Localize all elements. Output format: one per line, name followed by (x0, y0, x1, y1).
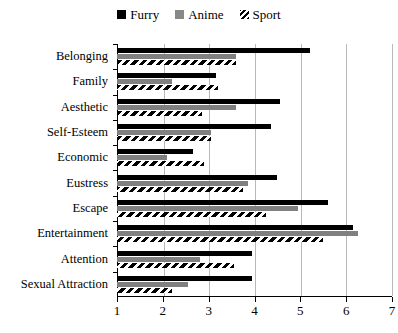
legend-item-anime: Anime (175, 8, 223, 21)
bar-anime (117, 206, 298, 211)
bar-sport (117, 237, 323, 242)
legend-item-sport: Sport (240, 8, 281, 21)
y-axis-tick (113, 170, 117, 171)
bar-group (117, 196, 392, 221)
y-axis-label: Sexual Attraction (0, 272, 113, 297)
x-axis-label: 7 (389, 303, 396, 319)
bar-group (117, 69, 392, 94)
bar-anime (117, 79, 172, 84)
bar-anime (117, 231, 358, 236)
bar-rows (117, 44, 392, 297)
bar-sport (117, 85, 218, 90)
legend-swatch-sport-icon (240, 10, 249, 19)
x-axis-tick (117, 297, 118, 302)
bar-group (117, 221, 392, 246)
horizontal-bar-chart: Furry Anime Sport BelongingFamilyAesthet… (0, 0, 398, 333)
bar-furry (117, 276, 252, 281)
bar-anime (117, 257, 200, 262)
y-axis-label: Escape (0, 196, 113, 221)
x-axis-label: 5 (297, 303, 304, 319)
x-axis-tick (300, 297, 301, 302)
x-axis-labels: 1234567 (0, 303, 398, 325)
bar-furry (117, 225, 353, 230)
y-axis-label: Attention (0, 246, 113, 271)
bar-sport (117, 212, 266, 217)
bar-sport (117, 288, 172, 293)
x-axis-label: 2 (160, 303, 167, 319)
bar-furry (117, 175, 277, 180)
bar-anime (117, 130, 211, 135)
bar-furry (117, 124, 271, 129)
bar-group (117, 145, 392, 170)
bar-furry (117, 149, 193, 154)
bar-group (117, 95, 392, 120)
y-axis-label: Family (0, 69, 113, 94)
x-axis-label: 3 (205, 303, 212, 319)
bar-anime (117, 105, 236, 110)
y-axis-label: Aesthetic (0, 95, 113, 120)
plot-area-wrapper (117, 44, 392, 297)
bar-group (117, 272, 392, 297)
bar-sport (117, 136, 211, 141)
y-axis-tick (113, 221, 117, 222)
bar-sport (117, 161, 204, 166)
y-axis-label: Belonging (0, 44, 113, 69)
bar-group (117, 170, 392, 195)
legend-label-anime: Anime (188, 8, 223, 21)
bar-sport (117, 111, 202, 116)
legend-label-furry: Furry (130, 8, 159, 21)
bar-group (117, 120, 392, 145)
y-axis-tick (113, 120, 117, 121)
x-axis-label: 6 (343, 303, 350, 319)
legend-label-sport: Sport (253, 8, 281, 21)
y-axis-label: Self-Esteem (0, 120, 113, 145)
y-axis-label: Eustress (0, 170, 113, 195)
x-axis-tick (209, 297, 210, 302)
bar-anime (117, 181, 248, 186)
bar-furry (117, 73, 216, 78)
x-axis-tick (255, 297, 256, 302)
bar-anime (117, 155, 167, 160)
x-axis-tick (346, 297, 347, 302)
y-axis-tick (113, 95, 117, 96)
legend-item-furry: Furry (117, 8, 159, 21)
x-axis-tick (392, 297, 393, 302)
bar-furry (117, 48, 310, 53)
legend-swatch-furry-icon (117, 10, 126, 19)
x-axis-label: 1 (114, 303, 121, 319)
bar-furry (117, 200, 328, 205)
bar-furry (117, 251, 252, 256)
bar-sport (117, 263, 234, 268)
y-axis-tick (113, 44, 117, 45)
chart-legend: Furry Anime Sport (0, 8, 398, 21)
y-axis-tick (113, 145, 117, 146)
bar-sport (117, 187, 243, 192)
gridline (392, 44, 393, 296)
legend-swatch-anime-icon (175, 10, 184, 19)
bar-group (117, 246, 392, 271)
bar-furry (117, 99, 280, 104)
y-axis-tick (113, 69, 117, 70)
bar-group (117, 44, 392, 69)
bar-sport (117, 60, 236, 65)
x-axis-label: 4 (251, 303, 258, 319)
y-axis-label: Entertainment (0, 221, 113, 246)
x-axis-tick (163, 297, 164, 302)
bar-anime (117, 282, 188, 287)
y-axis-labels: BelongingFamilyAestheticSelf-EsteemEcono… (0, 44, 113, 297)
y-axis-label: Economic (0, 145, 113, 170)
y-axis-tick (113, 246, 117, 247)
y-axis-tick (113, 272, 117, 273)
y-axis-tick (113, 196, 117, 197)
bar-anime (117, 54, 236, 59)
